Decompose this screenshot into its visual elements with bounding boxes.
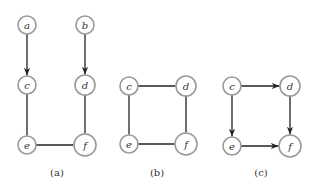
node-label: e bbox=[126, 139, 132, 150]
node-a: a bbox=[18, 16, 36, 34]
node-d: d bbox=[176, 76, 196, 96]
node-f: f bbox=[175, 133, 197, 155]
node-label: c bbox=[126, 81, 132, 92]
node-d: d bbox=[75, 75, 95, 95]
panel-b: cdef(b) bbox=[120, 76, 197, 178]
panel-caption: (b) bbox=[150, 167, 164, 178]
node-label: b bbox=[82, 20, 88, 31]
node-d: d bbox=[280, 76, 300, 96]
node-label: c bbox=[24, 80, 30, 91]
node-e: e bbox=[18, 136, 36, 154]
panel-c: cdef(c) bbox=[223, 76, 301, 178]
node-label: e bbox=[24, 140, 30, 151]
node-label: d bbox=[183, 81, 189, 92]
node-f: f bbox=[279, 135, 301, 157]
node-label: e bbox=[229, 141, 235, 152]
node-f: f bbox=[74, 134, 96, 156]
graph-diagram: abcdef(a) cdef(b) cdef(c) bbox=[0, 0, 315, 192]
node-e: e bbox=[120, 135, 138, 153]
node-c: c bbox=[223, 77, 241, 95]
node-label: a bbox=[24, 20, 30, 31]
panel-caption: (a) bbox=[50, 167, 64, 178]
panel-a: abcdef(a) bbox=[18, 16, 96, 178]
node-label: d bbox=[82, 80, 88, 91]
panel-caption: (c) bbox=[254, 167, 268, 178]
node-label: d bbox=[287, 81, 293, 92]
node-b: b bbox=[76, 16, 94, 34]
node-c: c bbox=[120, 77, 138, 95]
node-label: c bbox=[229, 81, 235, 92]
node-e: e bbox=[223, 137, 241, 155]
node-c: c bbox=[18, 76, 36, 94]
